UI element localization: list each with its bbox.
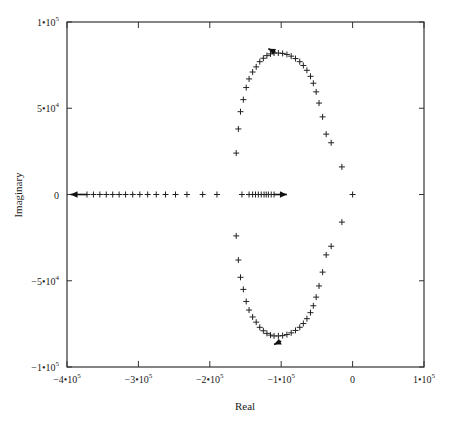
plus-marker bbox=[250, 314, 256, 320]
x-tick-label: 1•105 bbox=[413, 372, 436, 385]
x-axis-title: Real bbox=[235, 400, 255, 412]
plus-marker bbox=[250, 69, 256, 75]
plus-marker bbox=[310, 80, 316, 86]
plus-marker bbox=[200, 192, 206, 198]
plus-marker bbox=[235, 257, 241, 263]
plus-marker bbox=[123, 192, 129, 198]
plus-marker bbox=[173, 192, 179, 198]
plus-marker bbox=[316, 283, 322, 289]
plus-marker bbox=[316, 100, 322, 106]
plus-marker bbox=[297, 59, 303, 65]
x-tick-label: −1•105 bbox=[267, 372, 295, 385]
plus-marker bbox=[238, 109, 244, 115]
plus-marker bbox=[243, 298, 249, 304]
y-tick-label: −5•104 bbox=[31, 274, 59, 287]
arrow-head-icon bbox=[280, 191, 287, 197]
plus-marker bbox=[300, 62, 306, 68]
data-points bbox=[84, 50, 356, 339]
plus-marker bbox=[320, 114, 326, 120]
plus-marker bbox=[97, 192, 103, 198]
plus-marker bbox=[313, 294, 319, 300]
plus-marker bbox=[304, 67, 310, 73]
plus-marker bbox=[350, 192, 356, 198]
plus-marker bbox=[323, 131, 329, 137]
y-tick-label: 1•105 bbox=[37, 15, 60, 28]
plus-marker bbox=[300, 321, 306, 327]
plus-marker bbox=[257, 59, 263, 65]
plus-marker bbox=[163, 192, 169, 198]
x-tick-label: −2•105 bbox=[196, 372, 224, 385]
plus-marker bbox=[257, 324, 263, 330]
plus-marker bbox=[110, 192, 116, 198]
plus-marker bbox=[233, 150, 239, 156]
plus-marker bbox=[214, 192, 220, 198]
y-tick-label: −1•105 bbox=[31, 360, 59, 373]
plus-marker bbox=[328, 243, 334, 249]
plus-marker bbox=[240, 97, 246, 103]
plus-marker bbox=[246, 76, 252, 82]
plus-marker bbox=[339, 219, 345, 225]
plus-marker bbox=[323, 252, 329, 258]
plus-marker bbox=[103, 192, 109, 198]
y-tick-label: 0 bbox=[54, 190, 59, 201]
root-locus-chart: −4•105−3•105−2•105−1•10501•1051•1055•104… bbox=[0, 0, 450, 424]
arrow-head-icon bbox=[71, 191, 78, 197]
plus-marker bbox=[233, 233, 239, 239]
plus-marker bbox=[313, 89, 319, 95]
plus-marker bbox=[307, 73, 313, 79]
plus-marker bbox=[137, 192, 143, 198]
plus-marker bbox=[280, 333, 286, 339]
plus-marker bbox=[307, 310, 313, 316]
plus-marker bbox=[145, 192, 151, 198]
plus-marker bbox=[320, 269, 326, 275]
plus-marker bbox=[239, 192, 245, 198]
plus-marker bbox=[90, 192, 96, 198]
x-tick-label: −3•105 bbox=[125, 372, 153, 385]
plus-marker bbox=[297, 324, 303, 330]
plus-marker bbox=[184, 192, 190, 198]
plus-marker bbox=[339, 164, 345, 170]
y-axis-title: Imaginary bbox=[12, 172, 24, 218]
plus-marker bbox=[116, 192, 122, 198]
plus-marker bbox=[246, 307, 252, 313]
plus-marker bbox=[280, 50, 286, 56]
plus-marker bbox=[310, 303, 316, 309]
direction-arrows bbox=[71, 49, 287, 345]
y-tick-label: 5•104 bbox=[37, 101, 60, 114]
x-tick-label: −4•105 bbox=[53, 372, 81, 385]
plus-marker bbox=[328, 140, 334, 146]
plus-marker bbox=[243, 85, 249, 91]
plus-marker bbox=[235, 126, 241, 132]
plus-marker bbox=[153, 192, 159, 198]
axis-tick-labels: −4•105−3•105−2•105−1•10501•1051•1055•104… bbox=[31, 15, 435, 385]
plus-marker bbox=[253, 64, 259, 70]
plus-marker bbox=[240, 286, 246, 292]
plus-marker bbox=[253, 319, 259, 325]
x-tick-label: 0 bbox=[350, 374, 355, 385]
plus-marker bbox=[304, 316, 310, 322]
plus-marker bbox=[130, 192, 136, 198]
plus-marker bbox=[238, 274, 244, 280]
